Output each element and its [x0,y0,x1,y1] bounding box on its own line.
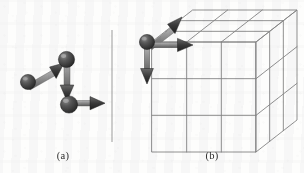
figure-canvas [0,0,304,173]
node-left [20,74,35,89]
origin-node [139,34,154,49]
node-bottom [60,96,77,113]
panel-b-caption: (b) [197,150,227,161]
node-top [58,51,74,67]
panel-a-caption: (a) [48,150,78,161]
